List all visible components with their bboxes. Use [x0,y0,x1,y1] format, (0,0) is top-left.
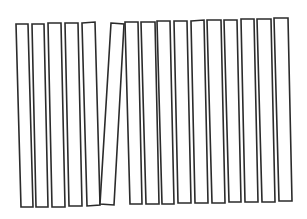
bar-group [16,18,292,207]
bar [174,21,191,203]
bar [274,18,292,201]
bar [65,23,82,206]
bar [241,19,258,202]
bar [48,23,65,207]
bar [32,24,48,207]
bar [82,22,100,206]
bars-diagram [0,0,307,219]
bar [157,21,174,204]
bar [257,19,275,202]
bar [224,20,241,202]
bar [141,22,159,204]
bar [16,24,33,207]
bar [125,22,142,204]
bar [191,20,208,203]
tilted-bar [100,23,124,205]
bar [207,20,225,203]
